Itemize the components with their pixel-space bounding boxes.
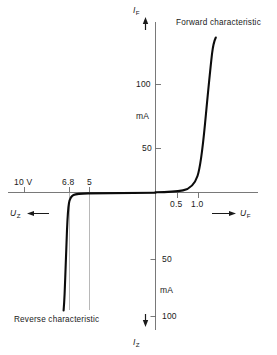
forward-characteristic-curve [156,38,216,193]
y-tick-label-50-lower: 50 [162,255,172,264]
voltage-axis-right-arrow [212,211,236,216]
x-tick-label-10v: 10 V [14,178,32,187]
characteristic-curve-plot [0,0,277,355]
annotation-reverse-characteristic: Reverse characteristic [14,316,99,324]
reverse-characteristic-curve [64,193,156,311]
x-tick-label-5: 5 [87,178,92,187]
axis-label-uz: UZ [10,209,20,218]
x-tick-label-0p5: 0.5 [170,200,182,209]
y-tick-label-100-lower: 100 [162,312,177,321]
unit-label-ma-upper: mA [136,112,149,121]
y-tick-label-50-upper: 50 [142,144,152,153]
current-axis-up-arrow [143,17,148,30]
axis-label-iz: IZ [133,338,140,347]
annotation-forward-characteristic: Forward characteristic [176,19,261,27]
zener-characteristic-figure: IF IZ UF UZ 100 50 mA 50 mA 100 0.5 1.0 … [0,0,277,355]
unit-label-ma-lower: mA [160,286,173,295]
axis-label-uf: UF [240,209,250,218]
x-tick-label-1p0: 1.0 [191,200,203,209]
voltage-axis-left-arrow [27,211,49,216]
x-tick-label-6p8: 6.8 [62,178,74,187]
axis-label-if: IF [133,6,140,15]
y-tick-label-100-upper: 100 [136,80,151,89]
current-axis-down-arrow [143,314,148,327]
